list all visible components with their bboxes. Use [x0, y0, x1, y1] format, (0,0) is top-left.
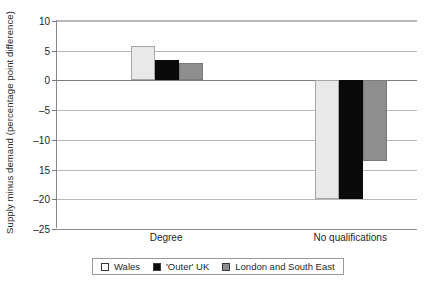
y-axis-tick-label: –20 [33, 194, 50, 205]
x-axis-label-no-qualifications: No qualifications [314, 232, 387, 243]
bar-no-qualifications-series-2 [363, 80, 387, 160]
x-axis-label-degree: Degree [150, 232, 183, 243]
legend-swatch-icon [101, 263, 109, 271]
legend-item-2: London and South East [222, 261, 334, 272]
y-axis-tick-label: 15 [39, 164, 50, 175]
y-axis-tick-0 [52, 80, 57, 81]
plot-area: 1050–5–1015–20–25 [56, 20, 417, 228]
y-axis-tick--15 [52, 170, 57, 171]
y-axis-tick--10 [52, 140, 57, 141]
y-axis-tick-5 [52, 51, 57, 52]
chart-screenshot: Supply minus demand (percentage point di… [0, 0, 427, 283]
y-axis-tick--25 [52, 229, 57, 230]
y-axis-tick-label: 10 [39, 16, 50, 27]
legend-label: 'Outer' UK [166, 261, 209, 272]
legend-swatch-icon [222, 263, 230, 271]
legend-label: Wales [114, 261, 140, 272]
y-axis-tick-label: 5 [44, 45, 50, 56]
legend-item-1: 'Outer' UK [153, 261, 209, 272]
legend-label: London and South East [235, 261, 334, 272]
gridline--20 [57, 199, 417, 200]
gridline--25 [57, 229, 417, 230]
bar-no-qualifications-series-1 [339, 80, 363, 199]
y-axis-tick--5 [52, 110, 57, 111]
gridline-10 [57, 21, 417, 22]
legend-swatch-icon [153, 263, 161, 271]
y-axis-tick-label: 0 [44, 75, 50, 86]
gridline-5 [57, 51, 417, 52]
y-axis-tick-label: –25 [33, 224, 50, 235]
y-axis-title: Supply minus demand (percentage point di… [0, 0, 18, 245]
bar-degree-series-2 [179, 63, 203, 81]
legend-item-0: Wales [101, 261, 140, 272]
chart-legend: Wales'Outer' UKLondon and South East [92, 258, 344, 275]
y-axis-tick--20 [52, 199, 57, 200]
bar-no-qualifications-series-0 [315, 80, 339, 199]
y-axis-title-text: Supply minus demand (percentage point di… [4, 11, 15, 234]
y-axis-tick-label: –10 [33, 134, 50, 145]
y-axis-tick-10 [52, 21, 57, 22]
bar-degree-series-1 [155, 60, 179, 81]
bar-degree-series-0 [131, 46, 155, 80]
y-axis-tick-label: –5 [39, 105, 50, 116]
